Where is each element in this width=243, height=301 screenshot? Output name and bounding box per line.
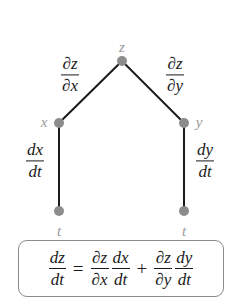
- fraction-numerator: dy: [196, 141, 214, 160]
- fraction-denominator: ∂x: [91, 269, 109, 288]
- plus-sign: +: [133, 258, 152, 280]
- fraction-numerator: ∂z: [91, 249, 108, 268]
- fraction-denominator: dt: [197, 162, 212, 181]
- node-label-x: x: [41, 115, 48, 130]
- term1-derivative: dx dt: [112, 249, 130, 288]
- formula-term-1: ∂z ∂x dx dt: [91, 249, 130, 288]
- fraction-numerator: dy: [175, 249, 193, 268]
- equals-sign: =: [69, 258, 88, 280]
- edge-label-dx-dt: dx dt: [26, 141, 44, 180]
- fraction-numerator: dx: [26, 141, 44, 160]
- fraction-denominator: dt: [27, 162, 42, 181]
- formula-term-2: ∂z ∂y dy dt: [154, 249, 193, 288]
- node-label-z: z: [119, 40, 125, 55]
- chain-rule-formula-box: dz dt = ∂z ∂x dx dt + ∂z ∂y dy dt: [18, 240, 224, 297]
- fraction-denominator: ∂y: [166, 76, 184, 95]
- fraction-denominator: dt: [177, 269, 192, 288]
- edge-label-dy-dt: dy dt: [196, 141, 214, 180]
- edge-label-dz-dx: ∂z ∂x: [61, 55, 79, 94]
- fraction-denominator: ∂y: [154, 269, 172, 288]
- fraction-numerator: ∂z: [166, 55, 183, 74]
- node-t-left: [54, 206, 64, 216]
- term2-partial: ∂z ∂y: [154, 249, 172, 288]
- edge-label-dz-dy: ∂z ∂y: [166, 55, 184, 94]
- node-label-t-left: t: [57, 224, 61, 239]
- fraction-numerator: dx: [112, 249, 130, 268]
- node-x: [54, 118, 64, 128]
- node-label-t-right: t: [182, 224, 186, 239]
- fraction-denominator: ∂x: [61, 76, 79, 95]
- node-z: [117, 56, 127, 66]
- fraction-numerator: ∂z: [61, 55, 78, 74]
- fraction-numerator: dz: [49, 249, 66, 268]
- term1-partial: ∂z ∂x: [91, 249, 109, 288]
- node-y: [179, 118, 189, 128]
- term2-derivative: dy dt: [175, 249, 193, 288]
- fraction-denominator: dt: [50, 269, 65, 288]
- node-label-y: y: [196, 115, 203, 130]
- fraction-numerator: ∂z: [155, 249, 172, 268]
- node-t-right: [179, 206, 189, 216]
- fraction-denominator: dt: [113, 269, 128, 288]
- formula-lhs: dz dt: [49, 249, 66, 288]
